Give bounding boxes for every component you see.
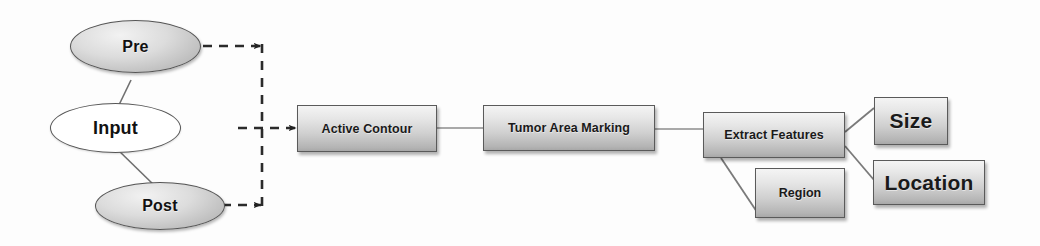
node-active-contour-label: Active Contour xyxy=(322,122,413,136)
node-post-label: Post xyxy=(142,197,177,215)
node-size-label: Size xyxy=(890,109,933,133)
node-extract-features[interactable]: Extract Features xyxy=(703,112,845,158)
node-tumor-area-marking-label: Tumor Area Marking xyxy=(508,121,630,135)
node-active-contour[interactable]: Active Contour xyxy=(297,105,437,152)
node-pre[interactable]: Pre xyxy=(70,20,201,73)
node-extract-features-label: Extract Features xyxy=(724,128,824,142)
node-tumor-area-marking[interactable]: Tumor Area Marking xyxy=(483,105,655,151)
edge-extract-features-region xyxy=(721,158,757,212)
node-region-label: Region xyxy=(779,186,821,200)
node-location-label: Location xyxy=(884,171,973,195)
node-size[interactable]: Size xyxy=(874,97,948,145)
node-input-label: Input xyxy=(93,118,138,139)
node-post[interactable]: Post xyxy=(95,182,225,230)
edge-extract-features-size xyxy=(845,108,874,132)
node-location[interactable]: Location xyxy=(873,160,985,205)
node-pre-label: Pre xyxy=(122,38,148,56)
node-region[interactable]: Region xyxy=(755,168,845,218)
node-input[interactable]: Input xyxy=(50,103,181,153)
edge-extract-features-location xyxy=(845,146,874,180)
diagram-canvas: Pre Input Post Active Contour Tumor Area… xyxy=(0,0,1040,246)
